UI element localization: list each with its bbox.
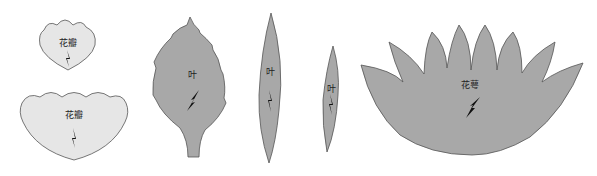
- templates-diagram: [0, 0, 597, 176]
- leaf-serrated-shape: [153, 17, 226, 157]
- leaf-long-shape: [259, 13, 281, 163]
- leaf-long-label: 叶: [266, 65, 275, 78]
- petal-small-label: 花瓣: [59, 36, 77, 49]
- petal-large-label: 花瓣: [65, 108, 83, 121]
- sepal-label: 花萼: [461, 78, 479, 91]
- leaf-serrated-label: 叶: [188, 68, 197, 81]
- petal-large-shape: [20, 93, 128, 161]
- leaf-narrow-label: 叶: [327, 82, 336, 95]
- leaf-narrow-shape: [323, 46, 339, 152]
